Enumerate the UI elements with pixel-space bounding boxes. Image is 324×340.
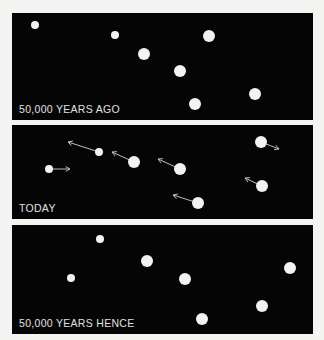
star-field-today	[12, 125, 313, 219]
star-icon	[284, 262, 296, 274]
motion-arrow-icon	[68, 142, 99, 152]
star-icon	[192, 197, 204, 209]
star-icon	[179, 273, 191, 285]
star-icon	[196, 313, 208, 325]
star-icon	[256, 180, 268, 192]
star-icon	[67, 274, 75, 282]
star-icon	[203, 30, 215, 42]
star-icon	[95, 148, 103, 156]
panel-label-future: 50,000 YEARS HENCE	[19, 317, 135, 329]
star-icon	[174, 163, 186, 175]
star-icon	[174, 65, 186, 77]
star-icon	[128, 156, 140, 168]
star-icon	[96, 235, 104, 243]
star-icon	[45, 165, 53, 173]
panel-label-today: TODAY	[19, 202, 56, 214]
panel-today: TODAY	[12, 125, 313, 219]
star-icon	[189, 98, 201, 110]
panel-label-past: 50,000 YEARS AGO	[19, 103, 120, 115]
star-icon	[111, 31, 119, 39]
star-icon	[249, 88, 261, 100]
star-icon	[31, 21, 39, 29]
panel-past: 50,000 YEARS AGO	[12, 13, 313, 120]
star-icon	[255, 136, 267, 148]
star-icon	[138, 48, 150, 60]
panel-future: 50,000 YEARS HENCE	[12, 225, 313, 334]
star-icon	[256, 300, 268, 312]
star-icon	[141, 255, 153, 267]
